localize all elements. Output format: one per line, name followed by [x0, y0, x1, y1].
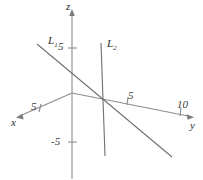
line-label-L1: L1: [48, 35, 58, 49]
plot-svg: [0, 0, 203, 180]
z-axis-label: z: [66, 1, 70, 12]
x-tick-5: [39, 104, 41, 112]
z-tick-label-5: 5: [58, 41, 64, 52]
line-label-L1-subscript: 1: [54, 41, 58, 49]
coordinate-diagram: z y x 5 -5 5 10 5 L1 L2: [0, 0, 203, 180]
x-tick-label-5: 5: [31, 101, 37, 112]
line-label-L2-subscript: 2: [113, 44, 117, 52]
y-axis-label: y: [190, 120, 195, 131]
z-tick-label-neg5: -5: [51, 136, 60, 147]
y-tick-label-5: 5: [128, 90, 134, 101]
x-axis-label: x: [11, 117, 16, 128]
x-axis-arrowhead: [16, 114, 24, 120]
line-label-L2: L2: [107, 38, 117, 52]
y-tick-label-10: 10: [177, 99, 188, 110]
x-axis-line: [22, 93, 72, 115]
